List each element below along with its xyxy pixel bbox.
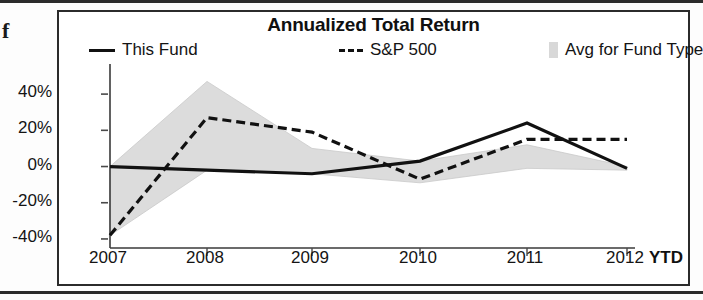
y-tick-label: 20% [0,118,52,138]
band-swatch-icon [549,42,558,58]
series-line-s-p-500 [110,118,627,236]
legend-label: This Fund [122,40,198,60]
x-tick-label: 2010 [399,248,437,268]
ytd-label: YTD [649,248,683,268]
x-tick-label: 2008 [186,248,224,268]
top-divider [0,0,703,3]
legend-item-this-fund: This Fund [89,40,198,60]
series-band-avg-fund-type [110,81,627,235]
solid-line-icon [89,49,115,52]
x-tick-label: 2009 [291,248,329,268]
y-tick-label: 40% [0,82,52,102]
chart-container: f Annualized Total Return This Fund S&P … [0,0,703,300]
chart-title: Annualized Total Return [59,14,688,36]
x-axis-tick-labels: YTD 200720082009201020112012 [57,248,690,274]
legend-label: Avg for Fund Type [565,40,703,60]
bottom-divider [0,291,703,294]
y-tick-label: -40% [0,227,52,247]
y-axis-tick-labels: 40%20%0%-20%-40% [0,10,52,286]
x-tick-label: 2011 [507,248,544,268]
legend-item-sp500: S&P 500 [339,40,437,60]
y-tick-label: -20% [0,191,52,211]
dashed-line-icon [339,49,363,52]
x-tick-label: 2012 [606,248,644,268]
legend-item-avg-fund-type: Avg for Fund Type [549,40,703,60]
legend-label: S&P 500 [370,40,437,60]
chart-frame: Annualized Total Return This Fund S&P 50… [57,10,690,286]
chart-legend: This Fund S&P 500 Avg for Fund Type [59,40,688,64]
y-tick-label: 0% [0,155,52,175]
series-line-this-fund [110,123,627,174]
x-tick-label: 2007 [89,248,127,268]
